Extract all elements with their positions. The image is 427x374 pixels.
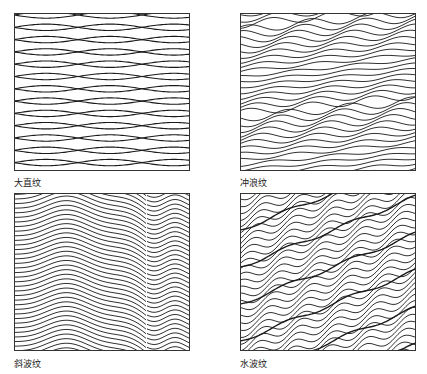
pattern-caption-surf: 冲浪纹 — [240, 176, 267, 189]
pattern-panel-water-wave — [240, 193, 416, 351]
pattern-panel-surf — [240, 13, 416, 171]
pattern-caption-big-straight: 大直纹 — [14, 176, 41, 189]
pattern-panel-oblique-wave — [14, 193, 190, 351]
pattern-caption-water-wave: 水波纹 — [240, 357, 267, 370]
pattern-oblique-wave-graphic — [14, 193, 190, 351]
pattern-water-wave-graphic — [240, 193, 416, 351]
pattern-surf-graphic — [240, 13, 416, 171]
pattern-big-straight-graphic — [14, 13, 190, 171]
pattern-panel-big-straight — [14, 13, 190, 171]
pattern-caption-oblique-wave: 斜波纹 — [14, 357, 41, 370]
